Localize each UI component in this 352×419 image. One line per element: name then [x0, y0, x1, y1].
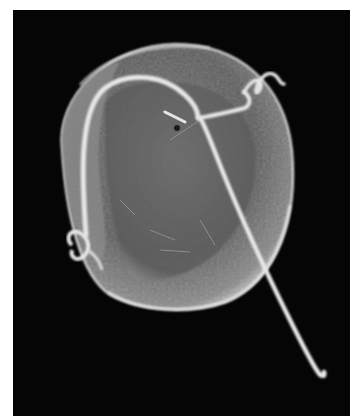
cell-pore	[174, 125, 180, 131]
micrograph-image	[0, 0, 352, 419]
